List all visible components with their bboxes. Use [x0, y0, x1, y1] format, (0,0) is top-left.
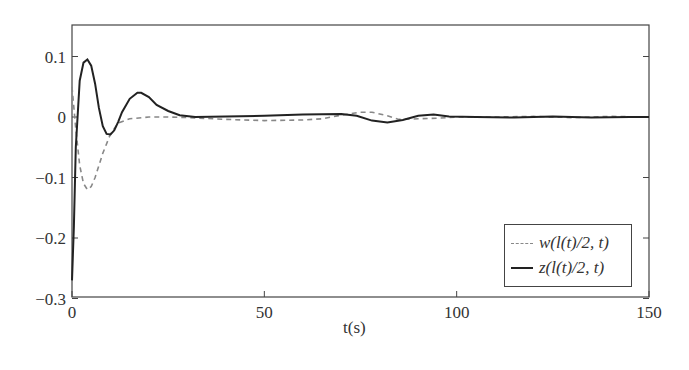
svg-text:0.1: 0.1: [45, 48, 66, 67]
svg-text:150: 150: [636, 303, 662, 322]
svg-text:100: 100: [444, 303, 470, 322]
svg-text:0: 0: [58, 108, 67, 127]
dashed-line-swatch-icon: [511, 243, 533, 244]
svg-text:−0.1: −0.1: [35, 169, 66, 188]
legend-item-z: z(l(t)/2, t): [511, 257, 604, 279]
legend-label-w: w(l(t)/2, t): [539, 233, 609, 253]
svg-text:−0.2: −0.2: [35, 229, 66, 248]
solid-line-swatch-icon: [511, 267, 533, 269]
legend-item-w: w(l(t)/2, t): [511, 232, 609, 254]
svg-text:−0.3: −0.3: [35, 290, 66, 309]
series-w-line: [72, 87, 649, 190]
svg-text:50: 50: [256, 303, 273, 322]
svg-text:0: 0: [68, 303, 77, 322]
chart-canvas: 0501001500.10−0.1−0.2−0.3: [0, 0, 689, 370]
legend: w(l(t)/2, t) z(l(t)/2, t): [504, 224, 632, 287]
legend-label-z: z(l(t)/2, t): [539, 258, 604, 278]
x-axis-label: t(s): [343, 318, 366, 338]
